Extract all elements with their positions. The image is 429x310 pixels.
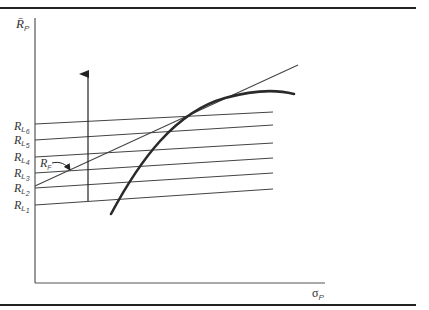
riskfree-label: RF [39, 156, 52, 171]
lending-label-1: RL1 [13, 198, 30, 214]
lending-line-6 [35, 112, 273, 124]
lending-label-5: RL5 [13, 133, 30, 149]
lending-line-2 [35, 173, 273, 188]
lending-labels: RL6 RL5 RL4 RL3 RL2 RL1 [13, 119, 30, 214]
efficient-frontier-curve [111, 91, 294, 214]
x-axis-label: σP [312, 286, 324, 302]
diagram-svg: R̄P σP RF RL6 RL5 RL4 RL3 RL2 [0, 0, 429, 310]
lending-label-3: RL3 [13, 166, 30, 182]
lending-label-4: RL4 [13, 150, 30, 166]
lending-line-5 [35, 125, 273, 140]
lending-lines [35, 112, 273, 205]
y-axis-label: R̄P [15, 16, 30, 33]
lending-line-1 [35, 189, 273, 205]
figure: R̄P σP RF RL6 RL5 RL4 RL3 RL2 [0, 0, 429, 310]
lending-label-2: RL2 [13, 181, 30, 197]
riskfree-pointer-arrow-icon [52, 162, 70, 170]
lending-line-3 [35, 158, 273, 173]
